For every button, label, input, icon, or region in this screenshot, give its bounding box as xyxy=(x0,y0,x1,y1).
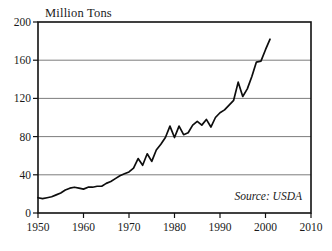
y-tick-label-200: 200 xyxy=(14,16,32,28)
x-tick-label-1960: 1960 xyxy=(72,221,95,233)
y-tick-label-120: 120 xyxy=(14,92,32,104)
plot-frame xyxy=(38,22,311,213)
x-tick-label-1980: 1980 xyxy=(163,221,186,233)
x-tick-label-2000: 2000 xyxy=(254,221,277,233)
y-tick-label-40: 40 xyxy=(20,169,32,181)
y-tick-label-80: 80 xyxy=(20,131,32,143)
y-tick-label-160: 160 xyxy=(14,54,32,66)
chart-plot-area: 0408012016020019501960197019801990200020… xyxy=(0,0,332,251)
x-tick-label-1970: 1970 xyxy=(118,221,141,233)
chart-container: Million Tons 040801201602001950196019701… xyxy=(0,0,332,251)
x-tick-label-2010: 2010 xyxy=(300,221,323,233)
y-tick-label-0: 0 xyxy=(25,207,31,219)
x-tick-label-1990: 1990 xyxy=(209,221,232,233)
source-annotation: Source: USDA xyxy=(234,190,303,202)
x-tick-label-1950: 1950 xyxy=(27,221,50,233)
